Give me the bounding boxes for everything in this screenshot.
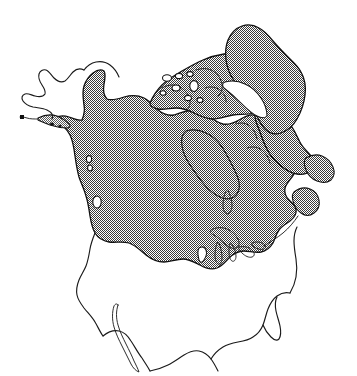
- vancouver-island: [93, 196, 101, 208]
- archipelago-island-3: [187, 72, 193, 77]
- archipelago-island-2: [175, 73, 182, 78]
- peninsula-mark-1: [50, 122, 54, 125]
- archipelago-island-8: [160, 91, 166, 95]
- peninsula-mark-2: [58, 125, 61, 128]
- map-figure: Black and white outline map of North Ame…: [0, 0, 357, 376]
- archipelago-island-7: [197, 98, 203, 103]
- north-america-map-svg: [0, 0, 357, 376]
- haida-gwaii-island: [86, 156, 91, 163]
- archipelago-island-5: [190, 81, 198, 92]
- archipelago-island-4: [172, 85, 180, 91]
- western-island-dot: [20, 115, 24, 119]
- pacific-coast-island-2: [88, 165, 93, 171]
- archipelago-island-1: [163, 75, 172, 81]
- archipelago-island-6: [185, 95, 192, 100]
